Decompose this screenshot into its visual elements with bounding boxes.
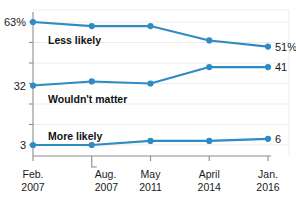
data-point[interactable] <box>147 80 153 86</box>
x-label-year-1: 2007 <box>95 181 119 193</box>
y-axis-label-2: 3 <box>20 139 26 151</box>
data-point[interactable] <box>30 82 36 88</box>
x-label-month-4: Jan. <box>258 168 278 180</box>
data-point[interactable] <box>30 142 36 148</box>
data-point[interactable] <box>206 64 212 70</box>
x-label-year-0: 2007 <box>21 181 45 193</box>
data-point[interactable] <box>206 37 212 43</box>
x-label-month-3: April <box>199 168 220 180</box>
x-label-year-2: 2011 <box>139 181 162 193</box>
end-value-label-1: 41 <box>275 61 287 73</box>
x-label-month-2: May <box>141 168 162 180</box>
chart-canvas: 63%323 51%416 Less likelyWouldn't matter… <box>0 0 296 199</box>
line-chart: 63%323 51%416 Less likelyWouldn't matter… <box>0 0 296 199</box>
data-point[interactable] <box>147 23 153 29</box>
data-point[interactable] <box>206 138 212 144</box>
series-name-2: More likely <box>48 130 102 142</box>
x-axis-category-labels: Feb.2007Aug.2007May2011April2014Jan.2016 <box>21 168 280 193</box>
y-axis-label-1: 32 <box>14 80 26 92</box>
x-label-year-3: 2014 <box>198 181 222 193</box>
series-name-1: Wouldn't matter <box>48 93 127 105</box>
x-label-month-0: Feb. <box>22 168 43 180</box>
data-point[interactable] <box>265 44 271 50</box>
data-point[interactable] <box>265 64 271 70</box>
y-axis-label-0: 63% <box>4 16 26 28</box>
data-point[interactable] <box>89 23 95 29</box>
x-label-month-1: Aug. <box>95 168 117 180</box>
data-point[interactable] <box>89 142 95 148</box>
data-point[interactable] <box>147 138 153 144</box>
series-name-labels: Less likelyWouldn't matterMore likely <box>48 34 127 142</box>
aug-bracket <box>92 161 97 167</box>
series-name-0: Less likely <box>48 34 101 46</box>
end-value-label-2: 6 <box>275 133 281 145</box>
x-label-year-4: 2016 <box>256 181 280 193</box>
end-value-labels: 51%416 <box>275 41 296 145</box>
end-value-label-0: 51% <box>275 41 296 53</box>
data-point[interactable] <box>265 136 271 142</box>
data-point[interactable] <box>89 78 95 84</box>
data-point[interactable] <box>30 19 36 25</box>
x-axis-ticks <box>33 156 268 167</box>
y-axis-labels: 63%323 <box>4 16 26 151</box>
